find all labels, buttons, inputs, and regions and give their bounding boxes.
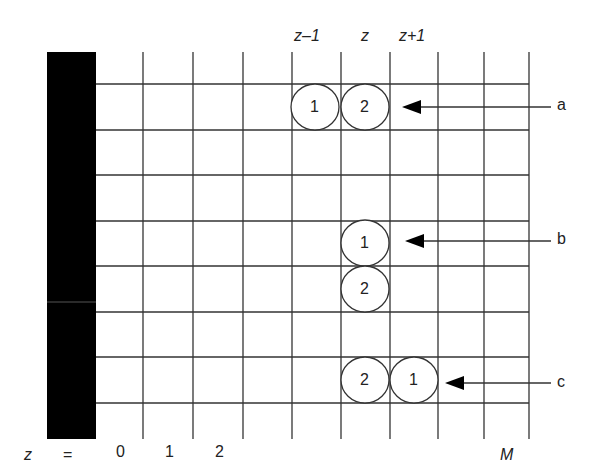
diagram-canvas [0,0,601,474]
tick-label-2: 2 [215,444,224,460]
arrow-a-head-icon [402,100,421,114]
tick-label-0: 0 [116,444,125,460]
circle-b-2-label: 2 [360,281,369,297]
config-label-b: b [557,231,566,247]
column-label-z-minus-1: z–1 [294,28,320,44]
configuration-a [291,84,551,130]
circle-c-2-label: 2 [360,372,369,388]
circle-b-1-label: 1 [360,235,369,251]
arrow-c-head-icon [445,376,464,390]
circle-a-2-label: 2 [360,99,369,115]
surface-wall [47,52,96,439]
circle-a-1-label: 1 [310,99,319,115]
circle-c-1-label: 1 [409,372,418,388]
arrow-b-head-icon [405,234,424,248]
configuration-c [341,357,551,403]
tick-label-m: M [500,447,513,463]
tick-label-1: 1 [165,444,174,460]
config-label-a: a [557,97,566,113]
axis-equals: = [63,447,72,463]
lattice-diagram: 1 2 1 2 2 1 a b c z–1 z z+1 z = 0 1 2 M [0,0,601,474]
axis-symbol-z: z [24,447,32,463]
config-label-c: c [557,374,565,390]
horizontal-grid-lines [96,84,529,403]
column-label-z-plus-1: z+1 [399,28,425,44]
column-label-z: z [361,28,369,44]
